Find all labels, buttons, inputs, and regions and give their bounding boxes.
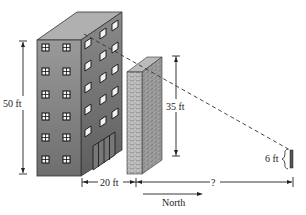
brick-wall xyxy=(127,57,162,174)
wall-side xyxy=(142,57,162,174)
north-label: North xyxy=(162,197,185,208)
wall-height-label: 35 ft xyxy=(166,101,185,112)
building-height-label: 50 ft xyxy=(3,98,22,109)
diagram-canvas: 50 ft 35 ft 20 ft ? North 6 ft xyxy=(0,0,306,215)
building xyxy=(37,12,122,176)
gap-distance-label: 20 ft xyxy=(100,177,119,188)
person-height-brace xyxy=(282,149,288,169)
unknown-distance-label: ? xyxy=(211,177,216,188)
person xyxy=(290,150,293,168)
north-arrow xyxy=(143,192,203,196)
person-height-label: 6 ft xyxy=(265,153,279,164)
wall-front xyxy=(127,72,142,174)
